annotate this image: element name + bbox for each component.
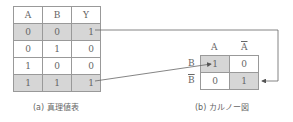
arrow-row11-to-cell00 xyxy=(95,64,211,81)
connector-arrows xyxy=(0,0,293,122)
arrow-row00-to-cell11 xyxy=(95,30,278,81)
